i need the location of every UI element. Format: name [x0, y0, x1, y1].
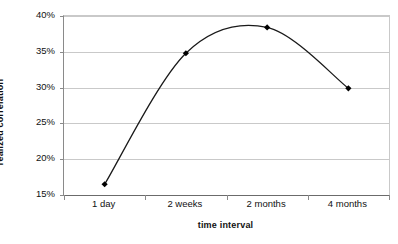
- plot-area: [63, 15, 390, 196]
- x-tick-label: 4 months: [307, 198, 388, 209]
- data-point-marker: [264, 24, 270, 30]
- y-tick-label: 20%: [15, 153, 55, 163]
- data-series-layer: [64, 16, 389, 195]
- y-tick-label: 40%: [15, 10, 55, 20]
- x-tick-label: 2 weeks: [144, 198, 225, 209]
- chart-figure: realized correlation 40%35%30%25%20%15% …: [0, 0, 398, 244]
- series-line-realized-correlation: [105, 25, 349, 184]
- y-tick-label: 35%: [15, 46, 55, 56]
- x-tick-label: 1 day: [63, 198, 144, 209]
- data-point-marker: [102, 181, 108, 187]
- x-axis-title: time interval: [63, 220, 388, 230]
- x-axis-tick: [389, 195, 390, 200]
- data-point-markers: [102, 24, 352, 187]
- y-tick-label: 25%: [15, 117, 55, 127]
- y-tick-label: 30%: [15, 82, 55, 92]
- y-tick-label: 15%: [15, 189, 55, 199]
- x-tick-label: 2 months: [226, 198, 307, 209]
